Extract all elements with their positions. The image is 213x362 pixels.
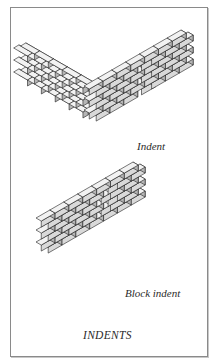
caption-indent: Indent (137, 140, 165, 152)
figure-title: INDENTS (83, 329, 132, 341)
brick-illustration (0, 0, 213, 362)
indent-corner-wall (14, 30, 194, 121)
caption-block-indent: Block indent (125, 287, 180, 299)
block-indent-wall (36, 162, 145, 253)
